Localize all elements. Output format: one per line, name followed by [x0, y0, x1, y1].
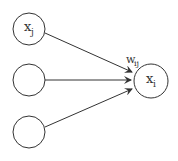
node-xi-subscript: i	[153, 79, 156, 89]
weight-label-subscript: ij	[134, 59, 139, 68]
edge-xj-xi	[45, 33, 132, 72]
edge-bottom-xi	[45, 89, 132, 127]
node-bottom	[13, 116, 45, 148]
node-xi: x i	[134, 64, 168, 98]
node-xj: x j	[13, 13, 45, 45]
neural-connection-diagram: x j x i w ij	[0, 0, 178, 161]
node-xj-subscript: j	[30, 27, 34, 37]
weight-label: w ij	[126, 53, 139, 68]
node-middle	[13, 64, 45, 96]
